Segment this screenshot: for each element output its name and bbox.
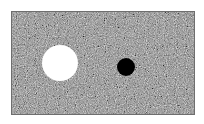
noise-panel xyxy=(11,11,195,115)
noise-texture xyxy=(12,12,195,115)
black-circle xyxy=(117,58,135,76)
white-circle xyxy=(42,45,78,81)
